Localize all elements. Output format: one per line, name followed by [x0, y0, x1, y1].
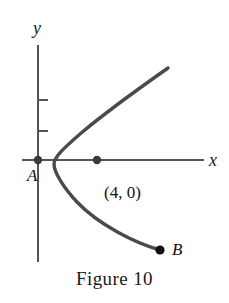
point-a-label: A — [26, 166, 38, 185]
point-a-dot — [34, 156, 42, 164]
figure-caption: Figure 10 — [0, 268, 229, 290]
y-axis-label: y — [31, 18, 41, 38]
point-b-dot — [155, 245, 164, 254]
figure-container: y x A (4, 0) B Figure 10 — [0, 0, 229, 303]
point-focus-dot — [93, 156, 101, 164]
coordinate-plot: y x A (4, 0) B — [0, 0, 229, 303]
x-axis-label: x — [208, 150, 217, 170]
point-b-label: B — [172, 240, 183, 259]
focus-coordinate-label: (4, 0) — [104, 183, 141, 202]
